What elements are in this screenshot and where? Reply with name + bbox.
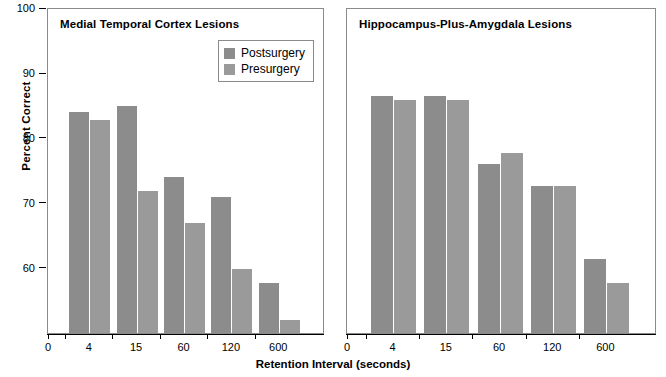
y-tick-label: 90 xyxy=(23,67,39,79)
x-tick-mark-origin xyxy=(48,335,49,339)
x-axis-line xyxy=(346,334,656,335)
bar-presurgery-15 xyxy=(447,100,469,333)
x-tick-mark xyxy=(207,335,208,339)
x-tick-mark xyxy=(255,335,256,339)
bar-postsurgery-4 xyxy=(371,96,393,333)
bar-presurgery-600 xyxy=(607,283,629,333)
bar-postsurgery-600 xyxy=(584,259,606,333)
bar-postsurgery-15 xyxy=(424,96,446,333)
bar-presurgery-15 xyxy=(138,191,158,333)
y-tick-mark xyxy=(39,137,46,138)
x-tick-mark xyxy=(65,335,66,339)
bar-presurgery-120 xyxy=(554,186,576,333)
x-tick-label-origin: 0 xyxy=(45,341,51,353)
x-tick-label-60: 60 xyxy=(177,341,189,353)
figure: Percent Correct 60708090100 Medial Tempo… xyxy=(0,0,666,377)
bar-postsurgery-120 xyxy=(211,197,231,333)
bar-presurgery-120 xyxy=(232,269,252,333)
y-tick-label: 100 xyxy=(17,2,39,14)
y-tick-mark xyxy=(39,73,46,74)
y-tick-80: 80 xyxy=(23,132,46,144)
bar-postsurgery-120 xyxy=(531,186,553,333)
x-tick-label-600: 600 xyxy=(596,341,614,353)
y-tick-mark xyxy=(39,8,46,9)
x-tick-label-15: 15 xyxy=(440,341,452,353)
x-tick-label-4: 4 xyxy=(86,341,92,353)
x-tick-mark-origin xyxy=(347,335,348,339)
x-tick-label-120: 120 xyxy=(222,341,240,353)
x-axis-title: Retention Interval (seconds) xyxy=(256,358,411,370)
x-tick-label-origin: 0 xyxy=(344,341,350,353)
x-tick-label-15: 15 xyxy=(130,341,142,353)
legend-item-postsurgery: Postsurgery xyxy=(224,45,305,61)
bar-presurgery-4 xyxy=(90,120,110,333)
x-tick-label-600: 600 xyxy=(269,341,287,353)
legend-swatch-postsurgery xyxy=(224,48,235,59)
x-tick-label-4: 4 xyxy=(390,341,396,353)
x-tick-mark xyxy=(472,335,473,339)
bar-presurgery-60 xyxy=(501,153,523,333)
legend-swatch-presurgery xyxy=(224,64,235,75)
bar-presurgery-60 xyxy=(185,223,205,333)
x-tick-mark xyxy=(419,335,420,339)
x-tick-mark xyxy=(526,335,527,339)
x-tick-label-120: 120 xyxy=(543,341,561,353)
y-tick-100: 100 xyxy=(17,2,46,14)
y-tick-mark xyxy=(39,267,46,268)
y-tick-label: 70 xyxy=(23,197,39,209)
legend: Postsurgery Presurgery xyxy=(218,40,314,82)
bar-postsurgery-600 xyxy=(259,283,279,333)
x-axis-line xyxy=(47,334,324,335)
y-tick-90: 90 xyxy=(23,67,46,79)
x-tick-label-60: 60 xyxy=(493,341,505,353)
x-tick-mark xyxy=(160,335,161,339)
y-tick-label: 80 xyxy=(23,132,39,144)
bar-presurgery-600 xyxy=(280,320,300,333)
bar-postsurgery-60 xyxy=(478,164,500,333)
x-tick-mark xyxy=(366,335,367,339)
x-tick-mark xyxy=(579,335,580,339)
bar-postsurgery-4 xyxy=(69,112,89,333)
legend-item-presurgery: Presurgery xyxy=(224,61,305,77)
y-tick-mark xyxy=(39,202,46,203)
panel-hippocampus-plus-amygdala: Hippocampus-Plus-Amygdala Lesions xyxy=(346,8,656,334)
bar-postsurgery-60 xyxy=(164,177,184,333)
panel-medial-temporal-cortex: Medial Temporal Cortex Lesions Postsurge… xyxy=(47,8,324,334)
y-tick-label: 60 xyxy=(23,262,39,274)
bar-presurgery-4 xyxy=(394,100,416,333)
y-axis: Percent Correct 60708090100 xyxy=(0,0,46,377)
bar-postsurgery-15 xyxy=(117,106,137,333)
legend-label-presurgery: Presurgery xyxy=(241,63,300,75)
plot-area-right xyxy=(347,9,655,333)
legend-label-postsurgery: Postsurgery xyxy=(241,47,305,59)
y-tick-60: 60 xyxy=(23,262,46,274)
y-tick-70: 70 xyxy=(23,197,46,209)
x-tick-mark xyxy=(112,335,113,339)
